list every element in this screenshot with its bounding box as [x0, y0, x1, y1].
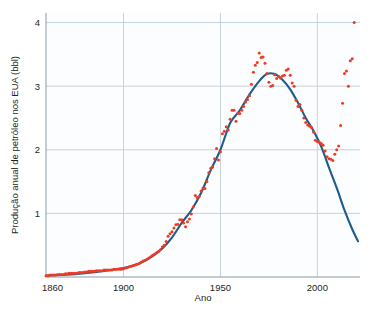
data-point: [184, 225, 187, 228]
data-point: [211, 165, 214, 168]
y-axis-title: Produção anual de petróleo nos EUA (bbl): [9, 56, 20, 234]
data-point: [242, 105, 245, 108]
x-tick-label: 1900: [113, 282, 134, 293]
data-point: [254, 64, 257, 67]
data-point: [343, 72, 346, 75]
data-point: [227, 129, 230, 132]
plot-area-background: [46, 13, 360, 277]
data-point: [304, 121, 307, 124]
data-point: [345, 69, 348, 72]
data-point: [163, 244, 166, 247]
data-point: [333, 153, 336, 156]
data-point: [244, 101, 247, 104]
data-point: [302, 116, 305, 119]
data-point: [200, 190, 203, 193]
data-point: [312, 130, 315, 133]
data-point: [182, 221, 185, 224]
data-point: [180, 218, 183, 221]
data-point: [172, 227, 175, 230]
data-point: [310, 126, 313, 129]
data-point: [351, 57, 354, 60]
y-tick-label: 4: [35, 17, 40, 28]
data-point: [347, 85, 350, 88]
y-tick-label: 3: [35, 81, 40, 92]
y-tick-label: 1: [35, 208, 40, 219]
data-point: [298, 103, 301, 106]
data-point: [283, 74, 286, 77]
chart-figure: 1234 1860190019502000 Ano Produção anual…: [0, 0, 374, 316]
data-point: [205, 180, 208, 183]
data-point: [295, 99, 298, 102]
data-point: [240, 109, 243, 112]
data-point: [238, 112, 241, 115]
data-point: [293, 85, 296, 88]
data-point: [289, 74, 292, 77]
data-point: [203, 187, 206, 190]
data-point: [186, 220, 189, 223]
data-point: [300, 109, 303, 112]
data-point: [215, 147, 218, 150]
oil-production-chart: 1234 1860190019502000 Ano Produção anual…: [0, 0, 374, 316]
data-point: [248, 94, 251, 97]
data-point: [262, 55, 265, 58]
data-point: [219, 150, 222, 153]
data-point: [188, 218, 191, 221]
y-tick-label: 2: [35, 144, 40, 155]
data-point: [221, 132, 224, 135]
data-point: [192, 206, 195, 209]
data-point: [176, 223, 179, 226]
data-point: [252, 71, 255, 74]
data-point: [291, 81, 294, 84]
data-point: [207, 171, 210, 174]
data-point: [273, 73, 276, 76]
x-tick-label: 1860: [42, 282, 63, 293]
data-point: [265, 72, 268, 75]
data-point: [271, 84, 274, 87]
data-point: [339, 124, 342, 127]
data-point: [341, 102, 344, 105]
data-point: [287, 67, 290, 70]
data-point: [223, 130, 226, 133]
data-point: [246, 98, 249, 101]
data-point: [267, 81, 270, 84]
data-point: [264, 62, 267, 65]
data-point: [190, 213, 193, 216]
data-point: [250, 83, 253, 86]
data-point: [256, 61, 259, 64]
data-point: [322, 144, 325, 147]
data-point: [233, 109, 236, 112]
data-point: [234, 120, 237, 123]
data-point: [331, 159, 334, 162]
data-point: [229, 118, 232, 121]
data-point: [213, 157, 216, 160]
data-point: [217, 158, 220, 161]
x-axis-title: Ano: [195, 292, 212, 303]
data-point: [170, 230, 173, 233]
x-tick-label: 1950: [210, 282, 231, 293]
data-point: [167, 235, 170, 238]
data-point: [159, 248, 162, 251]
data-point: [225, 125, 228, 128]
data-point: [324, 150, 327, 153]
data-point: [337, 144, 340, 147]
data-point: [165, 240, 168, 243]
x-tick-label: 2000: [307, 282, 328, 293]
data-point: [335, 148, 338, 151]
data-point: [258, 52, 261, 55]
data-point: [198, 195, 201, 198]
data-point: [353, 21, 356, 24]
